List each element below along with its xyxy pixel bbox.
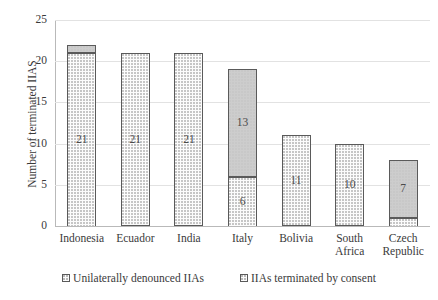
- x-tick-label: Ecuador: [109, 232, 163, 245]
- bar-segment[interactable]: 10: [335, 144, 364, 226]
- bar-value-label: 13: [237, 117, 249, 129]
- bar-segment[interactable]: [67, 45, 96, 53]
- bar-chart: Number of terminated IIAS 0510152025 212…: [0, 0, 438, 300]
- gridline-0: [55, 226, 430, 227]
- bar-value-label: 21: [76, 134, 88, 146]
- gridline-25: [55, 20, 430, 21]
- bar-stack[interactable]: 21: [121, 53, 150, 226]
- bar-value-label: 10: [344, 179, 356, 191]
- bar-value-label: 6: [240, 196, 246, 208]
- bar-segment[interactable]: 21: [67, 53, 96, 226]
- x-tick-label: Bolivia: [269, 232, 323, 245]
- x-tick-label: CzechRepublic: [376, 232, 430, 258]
- bar-stack[interactable]: 136: [228, 69, 257, 226]
- chart-legend: Unilaterally denounced IIAsIIAs terminat…: [0, 272, 438, 284]
- x-tick-label-line: South: [323, 232, 377, 245]
- bar-segment[interactable]: 21: [174, 53, 203, 226]
- y-tick-label-0: 0: [17, 220, 47, 232]
- bar-segment[interactable]: 13: [228, 69, 257, 176]
- bar-stack[interactable]: 11: [282, 135, 311, 226]
- bar-segment[interactable]: 6: [228, 177, 257, 226]
- legend-label: IIAs terminated by consent: [251, 272, 376, 284]
- x-tick-label-line: Bolivia: [269, 232, 323, 245]
- y-tick-label-15: 15: [17, 96, 47, 108]
- y-tick-label-25: 25: [17, 14, 47, 26]
- legend-swatch-icon: [240, 274, 248, 282]
- bar-stack[interactable]: 10: [335, 144, 364, 226]
- plot-area: 0510152025 21212113611107: [55, 20, 430, 226]
- bar-value-label: 21: [183, 134, 195, 146]
- bar-segment[interactable]: [389, 218, 418, 226]
- legend-swatch-icon: [62, 274, 70, 282]
- bar-stack[interactable]: 21: [174, 53, 203, 226]
- bar-value-label: 21: [130, 134, 142, 146]
- bar-segment[interactable]: 21: [121, 53, 150, 226]
- x-tick-label-line: Indonesia: [55, 232, 109, 245]
- y-tick-label-20: 20: [17, 55, 47, 67]
- gridline-20: [55, 61, 430, 62]
- bar-value-label: 7: [400, 183, 406, 195]
- x-tick-label-line: Republic: [376, 245, 430, 258]
- x-tick-label: Indonesia: [55, 232, 109, 245]
- y-tick-label-5: 5: [17, 179, 47, 191]
- x-tick-label: India: [162, 232, 216, 245]
- x-tick-label-line: Italy: [216, 232, 270, 245]
- y-tick-label-10: 10: [17, 138, 47, 150]
- legend-item-consent[interactable]: IIAs terminated by consent: [240, 272, 376, 284]
- x-tick-label-line: India: [162, 232, 216, 245]
- bar-segment[interactable]: 7: [389, 160, 418, 218]
- x-tick-label: SouthAfrica: [323, 232, 377, 258]
- y-axis-line: [55, 20, 56, 226]
- bar-value-label: 11: [291, 175, 302, 187]
- x-tick-label: Italy: [216, 232, 270, 245]
- bar-stack[interactable]: 7: [389, 160, 418, 226]
- bar-stack[interactable]: 21: [67, 45, 96, 226]
- x-tick-label-line: Ecuador: [109, 232, 163, 245]
- legend-label: Unilaterally denounced IIAs: [73, 272, 204, 284]
- legend-item-denounced[interactable]: Unilaterally denounced IIAs: [62, 272, 204, 284]
- bar-segment[interactable]: 11: [282, 135, 311, 226]
- x-tick-label-line: Czech: [376, 232, 430, 245]
- x-tick-label-line: Africa: [323, 245, 377, 258]
